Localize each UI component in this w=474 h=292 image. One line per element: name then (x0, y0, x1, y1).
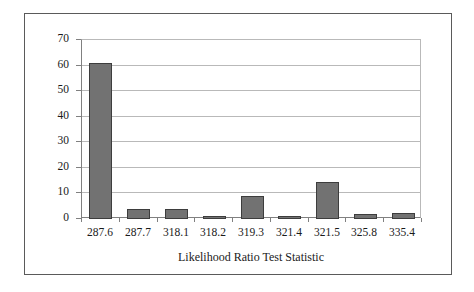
bar (278, 216, 301, 219)
y-tick-label: 10 (25, 186, 69, 198)
x-tick-label: 318.1 (157, 226, 195, 238)
bar (165, 209, 188, 219)
bar (203, 216, 226, 219)
x-tick-label: 318.2 (194, 226, 232, 238)
x-tick-mark (308, 218, 309, 222)
chart-frame: 010203040506070 287.6287.7318.1318.2319.… (24, 13, 452, 275)
bar (354, 214, 377, 219)
x-tick-mark (194, 218, 195, 222)
x-tick-label: 321.5 (308, 226, 346, 238)
x-tick-label: 335.4 (383, 226, 421, 238)
chart-figure: 010203040506070 287.6287.7318.1318.2319.… (0, 0, 474, 292)
y-tick-label: 70 (25, 33, 69, 45)
bars-layer (82, 40, 420, 217)
x-tick-mark (345, 218, 346, 222)
bar (127, 209, 150, 219)
bar (316, 182, 339, 219)
x-tick-label: 325.8 (345, 226, 383, 238)
x-tick-mark (421, 218, 422, 222)
x-tick-label: 287.6 (81, 226, 119, 238)
x-tick-mark (232, 218, 233, 222)
bar (89, 63, 112, 219)
x-tick-mark (270, 218, 271, 222)
bar (241, 196, 264, 219)
x-tick-label: 287.7 (119, 226, 157, 238)
x-tick-mark (81, 218, 82, 222)
y-tick-label: 20 (25, 161, 69, 173)
y-tick-label: 60 (25, 59, 69, 71)
x-tick-label: 319.3 (232, 226, 270, 238)
y-tick-label: 50 (25, 84, 69, 96)
y-tick-label: 0 (25, 212, 69, 224)
y-tick-label: 30 (25, 135, 69, 147)
x-tick-label: 321.4 (270, 226, 308, 238)
x-tick-mark (119, 218, 120, 222)
x-tick-mark (157, 218, 158, 222)
plot-area (81, 39, 421, 218)
x-tick-mark (383, 218, 384, 222)
x-axis-title: Likelihood Ratio Test Statistic (81, 250, 421, 264)
bar (392, 213, 415, 219)
y-tick-label: 40 (25, 110, 69, 122)
